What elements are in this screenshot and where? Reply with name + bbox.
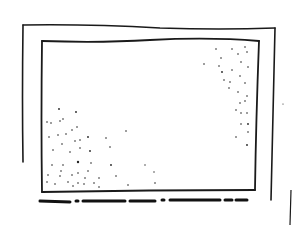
stipple-top-right: [203, 46, 283, 146]
caption-scribble: [40, 200, 247, 202]
sketch-canvas: [0, 0, 293, 229]
inner-frame: [42, 39, 260, 192]
stipple-bottom-left: [46, 108, 156, 188]
outer-frame: [23, 25, 276, 200]
stray-mark: [290, 190, 291, 225]
